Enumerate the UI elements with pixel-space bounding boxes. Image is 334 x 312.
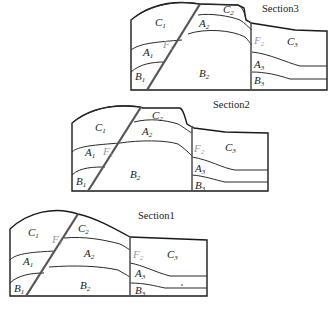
section-2-b3-top — [192, 175, 268, 182]
section-2-outline — [72, 106, 268, 191]
label-a3: A3 — [253, 58, 265, 72]
label-b3: B3 — [254, 74, 265, 88]
label-c1: C1 — [95, 121, 106, 135]
label-c3: C3 — [167, 248, 178, 262]
label-b2: B2 — [199, 67, 210, 81]
label-a1: A1 — [84, 146, 95, 160]
label-f2: F2 — [193, 142, 205, 156]
label-b1: B1 — [135, 70, 145, 84]
label-a2: A2 — [141, 125, 153, 139]
section-1-a1-top — [10, 251, 55, 260]
label-c1: C1 — [28, 226, 39, 240]
label-b1: B1 — [76, 175, 86, 189]
label-c3: C3 — [287, 35, 298, 49]
section-3-b3-top — [252, 72, 327, 79]
section-1-title: Section1 — [138, 210, 175, 221]
label-b3: B3 — [195, 179, 206, 193]
label-c3: C3 — [225, 141, 236, 155]
label-a1: A1 — [22, 255, 33, 269]
section-3: Section3 C1 C2 C3 A1 A2 A3 B1 B2 B3 F1 F… — [131, 3, 327, 90]
label-f1: F1 — [102, 145, 113, 159]
label-b2: B2 — [80, 279, 91, 293]
label-a1: A1 — [142, 46, 153, 60]
label-b3: B3 — [135, 284, 146, 298]
section-2-title: Section2 — [213, 99, 250, 110]
label-f1: F1 — [162, 38, 173, 52]
label-c1: C1 — [155, 16, 166, 30]
section-2: Section2 C1 C2 C3 A1 A2 A3 B1 B2 B3 F1 F… — [72, 99, 268, 193]
label-a2: A2 — [83, 247, 95, 261]
section-1-a2-top — [64, 237, 130, 250]
label-a3: A3 — [134, 267, 146, 281]
section-1: Section1 C1 C2 C3 A1 A2 A3 B1 B2 B3 F1 F… — [10, 210, 207, 298]
label-a2: A2 — [198, 17, 210, 31]
label-a3: A3 — [194, 162, 206, 176]
label-f1: F1 — [51, 233, 62, 247]
section-1-b2-top — [49, 266, 130, 277]
geological-cross-sections-figure: Section3 C1 C2 C3 A1 A2 A3 B1 B2 B3 F1 F… — [0, 0, 334, 312]
section-3-title: Section3 — [262, 3, 299, 14]
stray-dot — [181, 284, 183, 286]
section-3-b2-top — [188, 30, 252, 45]
label-b1: B1 — [14, 282, 24, 296]
label-f2: F2 — [132, 248, 144, 262]
label-c2: C2 — [152, 109, 163, 123]
label-b2: B2 — [130, 168, 141, 182]
label-c2: C2 — [78, 222, 89, 236]
label-f2: F2 — [253, 34, 265, 48]
section-2-b2-top — [120, 141, 192, 156]
